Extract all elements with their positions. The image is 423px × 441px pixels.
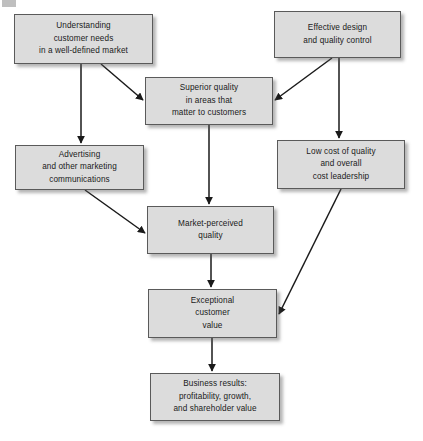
edge-advertising-to-market-perceived [85,190,145,233]
node-exceptional-customer-value: Exceptional customer value [148,289,277,338]
node-low-cost-of-quality: Low cost of quality and overall cost lea… [277,140,405,189]
node-label-market-perceived-quality: Market-perceived quality [174,218,247,243]
node-market-perceived-quality: Market-perceived quality [147,206,274,254]
node-label-business-results: Business results: profitability, growth,… [169,378,260,415]
node-label-low-cost-of-quality: Low cost of quality and overall cost lea… [302,146,379,183]
node-label-understanding-customer-needs: Understanding customer needs in a well-d… [35,20,132,57]
edge-low-cost-to-exceptional [279,189,341,314]
node-understanding-customer-needs: Understanding customer needs in a well-d… [14,14,153,64]
node-business-results: Business results: profitability, growth,… [150,373,280,421]
node-advertising: Advertising and other marketing communic… [15,145,144,190]
diagram-canvas: Understanding customer needs in a well-d… [0,0,423,441]
scan-artifact-mark [2,0,16,7]
node-label-effective-design: Effective design and quality control [299,22,375,47]
edge-understanding-to-superior-quality [101,64,143,100]
edge-effective-design-to-superior-quality [275,58,332,100]
node-label-advertising: Advertising and other marketing communic… [38,149,121,186]
node-effective-design: Effective design and quality control [274,11,401,58]
node-label-exceptional-customer-value: Exceptional customer value [187,295,238,332]
node-superior-quality: Superior quality in areas that matter to… [145,77,273,125]
node-label-superior-quality: Superior quality in areas that matter to… [168,82,250,119]
